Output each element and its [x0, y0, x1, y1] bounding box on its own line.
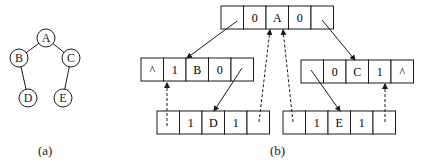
caption-b: (b)	[270, 143, 285, 159]
node-cell-value: 1	[377, 65, 383, 79]
node-cell-value: 1	[172, 63, 178, 77]
tree-label-d: D	[24, 91, 33, 105]
node-cell-value: 0	[332, 65, 338, 79]
node-cell-value: B	[193, 63, 201, 77]
thread-node-d: 1D1	[157, 111, 270, 134]
node-cell-value: 1	[233, 116, 239, 130]
node-cell	[221, 6, 244, 29]
node-cell-value: D	[209, 116, 218, 130]
thread-node-e: 1E1	[283, 111, 396, 134]
node-cell	[283, 111, 306, 134]
node-cell-value: 1	[188, 116, 194, 130]
thread-node-b: ^1B0	[141, 58, 254, 81]
node-cell	[311, 6, 334, 29]
node-cell-value: E	[336, 116, 343, 130]
thread-d-to-a	[259, 30, 270, 122]
node-cell-value: 1	[359, 116, 365, 130]
tree-label-e: E	[59, 91, 66, 105]
node-cell-value: ^	[149, 63, 155, 77]
node-cell-value: A	[273, 11, 282, 25]
node-cell-value: C	[353, 65, 361, 79]
link-a-to-b	[187, 21, 237, 58]
tree-label-c: C	[67, 51, 75, 65]
threaded-tree: 0A0^1B00C1^1D11E1	[141, 6, 414, 134]
node-cell-value: 0	[252, 11, 258, 25]
thread-node-a: 0A0	[221, 6, 334, 29]
node-cell	[247, 111, 270, 134]
tree-label-a: A	[42, 31, 51, 45]
diagram-canvas: A B C D E 0A0^1B00C1^1D11E1	[0, 0, 422, 168]
node-cell	[373, 111, 396, 134]
link-a-to-c	[322, 20, 355, 60]
thread-e-to-a	[283, 30, 293, 122]
node-cell-value: 0	[217, 63, 223, 77]
tree-label-b: B	[15, 51, 23, 65]
node-cell-value: 1	[314, 116, 320, 130]
node-cell	[157, 111, 180, 134]
node-cell	[231, 58, 254, 81]
node-cell-value: 0	[297, 11, 303, 25]
caption-a: (a)	[38, 143, 52, 159]
node-cell-value: ^	[399, 65, 405, 79]
